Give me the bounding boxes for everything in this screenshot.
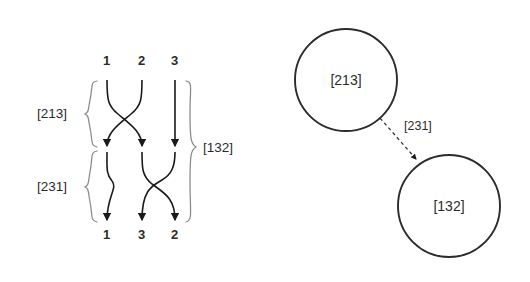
graph-node-label-132: [132] bbox=[419, 199, 479, 213]
braid-top-label-1: 1 bbox=[103, 54, 110, 67]
right-brace-label-132: [132] bbox=[203, 141, 233, 155]
braid-bottom-label-2: 3 bbox=[138, 228, 145, 241]
braid-top-label-2: 2 bbox=[138, 54, 145, 67]
graph-node-label-213: [213] bbox=[316, 73, 376, 87]
diagram-svg bbox=[0, 0, 530, 282]
braid-bottom-label-1: 1 bbox=[103, 228, 110, 241]
left-brace-top bbox=[85, 81, 97, 147]
braid-strand-upper-2-to-1 bbox=[107, 80, 142, 146]
braid-strand-lower-3-to-2 bbox=[142, 152, 175, 220]
braid-top-label-3: 3 bbox=[171, 54, 178, 67]
braid-diagram bbox=[85, 80, 196, 222]
state-graph bbox=[295, 29, 500, 257]
braid-strand-lower-1-seg-b bbox=[107, 181, 114, 220]
braid-strand-lower-1-seg-a bbox=[107, 152, 112, 181]
graph-edge-label-231: [231] bbox=[404, 120, 432, 133]
left-brace-label-213: [213] bbox=[37, 107, 67, 121]
braid-bottom-label-3: 2 bbox=[171, 228, 178, 241]
braid-strand-lower-2-to-3 bbox=[142, 152, 175, 220]
braid-strand-upper-1-to-2 bbox=[107, 80, 142, 146]
right-brace bbox=[186, 81, 196, 222]
left-brace-label-231: [231] bbox=[37, 180, 67, 194]
figure-canvas: 1 2 3 1 3 2 [213] [231] [132] [213] [132… bbox=[0, 0, 530, 282]
left-brace-bottom bbox=[85, 151, 97, 222]
